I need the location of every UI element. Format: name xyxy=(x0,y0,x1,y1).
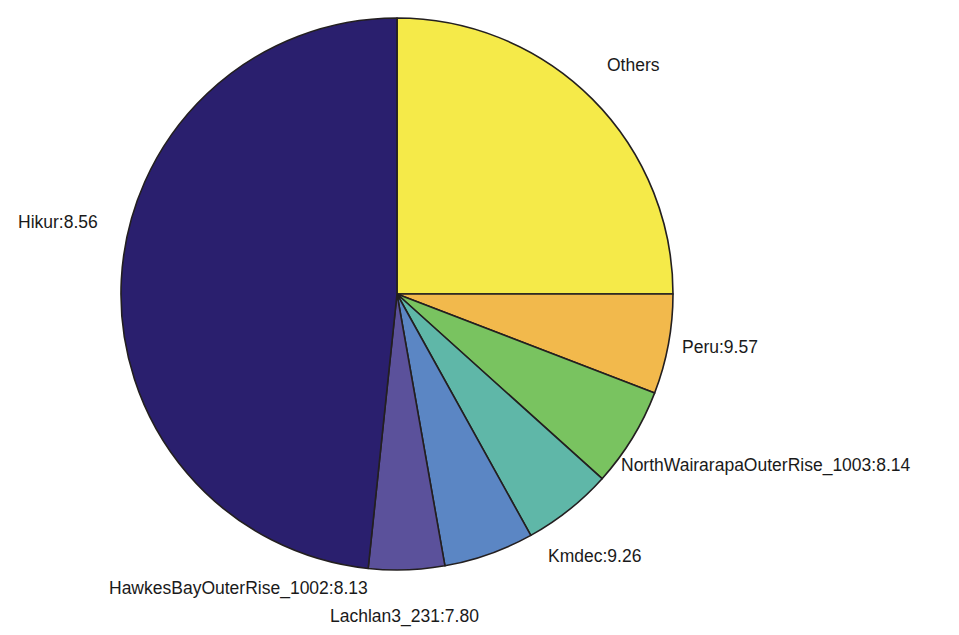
pie-slice-label: Kmdec:9.26 xyxy=(548,546,641,566)
pie-slice-label: Others xyxy=(607,55,660,75)
pie-chart-svg: OthersPeru:9.57NorthWairarapaOuterRise_1… xyxy=(0,0,959,635)
pie-slice-group xyxy=(121,18,673,570)
pie-slice-label: NorthWairarapaOuterRise_1003:8.14 xyxy=(621,455,910,476)
pie-slice-label: Lachlan3_231:7.80 xyxy=(330,606,479,627)
pie-slice-label: Hikur:8.56 xyxy=(18,212,98,232)
pie-slice-label: Peru:9.57 xyxy=(682,337,758,357)
pie-slice-label: HawkesBayOuterRise_1002:8.13 xyxy=(109,578,368,599)
pie-chart-container: OthersPeru:9.57NorthWairarapaOuterRise_1… xyxy=(0,0,959,635)
